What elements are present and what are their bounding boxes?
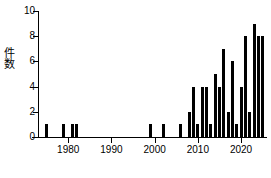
- y-axis-tick-label: 0: [29, 131, 38, 142]
- bar: [214, 74, 217, 137]
- x-axis-tick-mark: [241, 138, 242, 143]
- bar: [222, 49, 225, 137]
- x-axis-tick-mark: [198, 138, 199, 143]
- bar: [209, 124, 212, 137]
- bar: [201, 87, 204, 137]
- bar-chart: 件数 0246810 19801990200020102020: [0, 0, 271, 178]
- bar: [227, 112, 230, 137]
- x-axis-tick-label: 1990: [100, 144, 122, 155]
- bar: [149, 124, 152, 137]
- bar: [244, 36, 247, 137]
- bar: [248, 112, 251, 137]
- x-axis-tick-label: 2000: [144, 144, 166, 155]
- bar-series: [38, 11, 267, 137]
- bar: [162, 124, 165, 137]
- x-axis-tick-mark: [111, 138, 112, 143]
- bar: [75, 124, 78, 137]
- bar: [179, 124, 182, 137]
- y-axis-tick-label: 4: [29, 81, 38, 92]
- bar: [188, 112, 191, 137]
- bar: [257, 36, 260, 137]
- bar: [205, 87, 208, 137]
- bar: [218, 87, 221, 137]
- x-axis-tick-label: 2010: [187, 144, 209, 155]
- x-axis-tick-mark: [155, 138, 156, 143]
- x-axis-tick-mark: [68, 138, 69, 143]
- bar: [235, 124, 238, 137]
- y-axis-tick-label: 6: [29, 55, 38, 66]
- y-axis-tick-label: 10: [24, 5, 38, 16]
- bar: [231, 61, 234, 137]
- y-axis-tick-label: 2: [29, 106, 38, 117]
- bar: [62, 124, 65, 137]
- bar: [71, 124, 74, 137]
- bar: [192, 87, 195, 137]
- y-axis-title-text: 件数: [2, 48, 16, 70]
- bar: [261, 36, 264, 137]
- x-axis-tick-label: 1980: [57, 144, 79, 155]
- bar: [240, 87, 243, 137]
- y-axis-title: 件数: [2, 48, 16, 70]
- y-axis-tick-label: 8: [29, 30, 38, 41]
- bar: [253, 24, 256, 137]
- x-axis-tick-label: 2020: [230, 144, 252, 155]
- bar: [45, 124, 48, 137]
- bar: [196, 124, 199, 137]
